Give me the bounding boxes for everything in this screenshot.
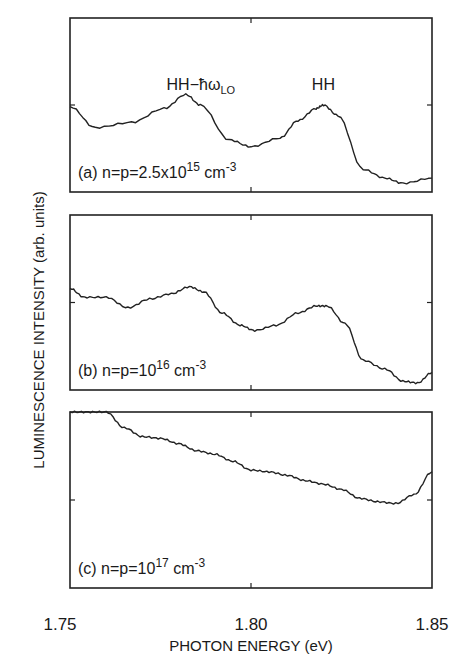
peak-annotation: HH bbox=[312, 76, 335, 93]
panel-label: (a) n=p=2.5x1015 cm-3 bbox=[78, 160, 237, 181]
x-tick-1-75: 1.75 bbox=[43, 615, 76, 634]
panel-label: (b) n=p=1016 cm-3 bbox=[78, 358, 206, 379]
spectrum-curve bbox=[70, 411, 432, 504]
panel-b: (b) n=p=1016 cm-3 bbox=[70, 215, 432, 390]
peak-annotation: HH−ħωLO bbox=[167, 76, 236, 96]
panel-a: (a) n=p=2.5x1015 cm-3HH−ħωLOHH bbox=[70, 18, 432, 192]
panel-label: (c) n=p=1017 cm-3 bbox=[78, 556, 206, 577]
x-tick-1-85: 1.85 bbox=[415, 615, 448, 634]
x-axis-label: PHOTON ENERGY (eV) bbox=[169, 637, 333, 654]
luminescence-chart: (a) n=p=2.5x1015 cm-3HH−ħωLOHH(b) n=p=10… bbox=[0, 0, 461, 657]
panel-c: (c) n=p=1017 cm-3 bbox=[70, 411, 432, 588]
y-axis-label: LUMINESCENCE INTENSITY (arb. units) bbox=[30, 191, 47, 468]
x-tick-1-80: 1.80 bbox=[234, 615, 267, 634]
